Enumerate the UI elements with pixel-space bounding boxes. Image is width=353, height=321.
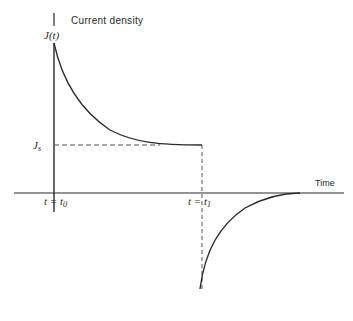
t1-subscript: 1 xyxy=(207,200,211,209)
t1-symbol: t = t xyxy=(188,195,207,207)
decay-curve xyxy=(54,43,202,145)
y-axis-title: Current density xyxy=(71,16,143,26)
steady-state-label: Js xyxy=(33,140,41,153)
t0-subscript: 0 xyxy=(63,200,67,209)
t1-label: t = t1 xyxy=(188,196,211,209)
t0-label: t = t0 xyxy=(44,196,67,209)
x-axis-title: Time xyxy=(315,179,335,188)
t0-symbol: t = t xyxy=(44,195,63,207)
current-density-diagram xyxy=(0,0,353,321)
y-axis-symbol: J(t) xyxy=(44,30,59,41)
recovery-curve xyxy=(200,193,300,289)
steady-state-subscript: s xyxy=(38,144,41,153)
